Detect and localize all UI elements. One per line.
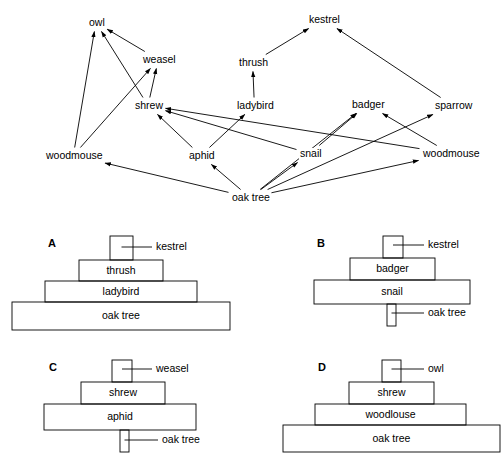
pyramid-d-label-woodlouse: woodlouse (365, 409, 415, 420)
pyramid-b-label-snail: snail (381, 286, 403, 297)
pyramid-d-level-owl (382, 360, 401, 382)
pyramid-b-label-badger: badger (376, 263, 409, 274)
pyramid-c-level-oak-tree (120, 430, 129, 452)
pyramid-c-label-oak-tree: oak tree (162, 434, 200, 445)
pyramid-c-level-weasel (112, 360, 132, 382)
pyramid-a-label-kestrel: kestrel (156, 241, 187, 252)
pyramid-a-label-oak-tree: oak tree (102, 310, 140, 321)
pyramid-a-label-ladybird: ladybird (103, 286, 140, 297)
pyramid-d-label-oak-tree: oak tree (373, 433, 411, 444)
pyramid-c-label-aphid: aphid (107, 411, 133, 422)
figure-root: owlkestrelweaselthrushshrewladybirdbadge… (0, 0, 504, 467)
pyramid-a-label-thrush: thrush (106, 265, 135, 276)
pyramid-b-label-kestrel: kestrel (428, 239, 459, 250)
pyramid-c-label-shrew: shrew (109, 387, 137, 398)
pyramid-letter-b: B (317, 238, 325, 249)
pyramid-letter-c: C (49, 362, 57, 373)
pyramid-d-label-owl: owl (428, 363, 444, 374)
pyramid-letter-a: A (48, 238, 56, 249)
pyramid-b-level-kestrel (383, 236, 403, 258)
pyramid-b-level-oak-tree (387, 304, 396, 326)
pyramid-letter-d: D (318, 362, 326, 373)
pyramid-c-label-weasel: weasel (156, 363, 189, 374)
pyramid-b-label-oak-tree: oak tree (428, 307, 466, 318)
pyramid-boxes (0, 0, 504, 467)
pyramid-a-level-kestrel (110, 236, 133, 260)
pyramid-d-label-shrew: shrew (377, 387, 405, 398)
